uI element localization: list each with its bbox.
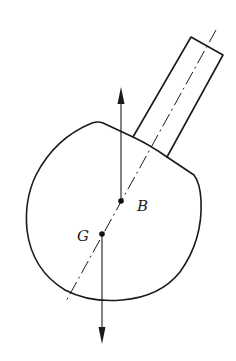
symmetry-axis [65, 30, 216, 303]
body-outline [26, 122, 201, 301]
label-b: B [136, 197, 148, 215]
label-g: G [77, 227, 89, 245]
weight-arrowhead-icon [99, 327, 106, 344]
stem-outline [133, 37, 223, 157]
point-g [99, 231, 105, 237]
floating-body-diagram: B G [0, 0, 236, 361]
buoyancy-arrowhead-icon [118, 87, 125, 104]
point-b [118, 198, 124, 204]
